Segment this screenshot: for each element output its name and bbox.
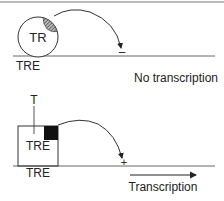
minus-marker: – [119, 45, 126, 59]
plus-marker: + [121, 156, 127, 168]
receptor-label: TR [29, 30, 46, 45]
top-panel: TR TRE – No transcription [13, 10, 218, 85]
outcome-transcription: Transcription [129, 180, 198, 194]
element-label-top: TRE [16, 59, 40, 73]
hormone-label: T [30, 93, 38, 107]
repression-arc [54, 10, 121, 48]
activation-arc [58, 120, 122, 158]
diagram-canvas: TR TRE – No transcription T TRE TRE + Tr… [0, 0, 224, 201]
element-label-inside: TRE [26, 139, 50, 153]
element-label-bottom: TRE [26, 166, 50, 180]
bottom-panel: T TRE TRE + Transcription [13, 93, 215, 194]
outcome-no-transcription: No transcription [134, 71, 218, 85]
activation-domain-icon [44, 126, 58, 140]
